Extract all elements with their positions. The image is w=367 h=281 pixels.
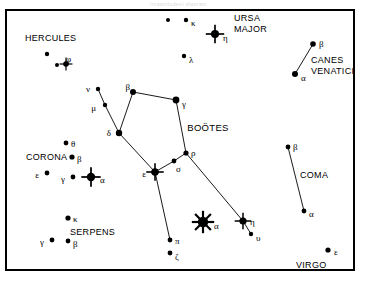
star-label: η [250,217,255,227]
star-disc [302,209,307,214]
star-label: ε [35,170,39,180]
star-disc [183,150,188,155]
star-label: σ [176,164,181,174]
star-disc [116,130,122,136]
constellation-label-virgo: VIRGO [296,260,327,270]
star-label: α [309,209,314,219]
star-label: λ [189,55,194,65]
star-disc [286,145,291,150]
star-marker [130,89,136,95]
star-marker [45,171,50,176]
star-label: ρ [191,148,196,158]
star-marker [168,251,173,256]
constellation-label-ursa-major-1: URSA [234,13,260,23]
star-disc [211,30,219,38]
star-disc [55,63,59,67]
star-marker [325,247,330,252]
star-label: β [293,142,298,152]
star-marker [71,175,76,180]
star-label: η [223,33,228,43]
star-marker [249,232,253,236]
star-disc [172,159,177,164]
constellation-label-hercules: HERCULES [25,33,76,43]
star-marker [55,63,59,67]
star-disc [66,239,71,244]
star-label: ν [86,84,90,94]
star-chart-figure: (magnitudes) diagram κηλφβανμβγδρσεπζαηυ… [0,0,367,281]
star-disc [310,41,316,47]
star-label: υ [256,233,261,243]
star-marker [302,209,307,214]
star-marker [168,238,173,243]
star-disc [166,18,170,22]
star-disc [87,173,95,181]
constellation-label-ursa-major-2: MAJOR [234,24,267,34]
star-marker [45,52,49,56]
star-marker [65,215,70,220]
star-disc [50,238,55,243]
star-marker [69,154,74,159]
star-marker [173,97,180,104]
constellation-label-corona: CORONA [26,152,67,162]
star-marker [310,41,316,47]
constellation-label-serpens: SERPENS [70,227,115,237]
star-label: μ [91,103,96,113]
star-disc [325,247,330,252]
constellation-label-bootes: BOÖTES [187,122,228,133]
star-label: γ [60,174,65,184]
star-label: β [73,239,78,249]
star-label: δ [107,128,111,138]
star-label: α [214,221,219,231]
star-marker [183,150,188,155]
star-label: ε [142,169,146,179]
star-label: α [301,73,306,83]
star-marker [116,130,122,136]
star-marker [192,211,214,233]
star-disc [239,217,246,224]
star-marker [182,54,186,58]
star-label: π [175,236,180,246]
star-marker [292,71,298,77]
star-marker [96,87,100,91]
star-marker [50,238,55,243]
star-disc [168,251,173,256]
constellation-label-canes-venatici-2: VENATICI [311,66,354,76]
star-disc [292,71,298,77]
star-disc [45,171,50,176]
star-marker [66,239,71,244]
star-label: β [77,154,82,164]
star-marker [172,159,177,164]
star-label: θ [71,139,75,149]
star-disc [71,175,76,180]
star-disc [69,154,74,159]
star-marker [64,141,69,146]
star-disc [65,215,70,220]
constellation-label-canes-venatici-1: CANES [311,55,344,65]
star-disc [173,97,180,104]
star-disc [249,232,253,236]
chart-frame [6,10,354,270]
star-marker [103,103,107,107]
star-label: β [125,82,130,92]
star-disc [96,87,100,91]
star-label: ζ [175,252,179,262]
star-marker [166,18,170,22]
star-marker [286,145,291,150]
star-label: φ [66,54,71,64]
star-disc [45,52,49,56]
star-label: β [319,39,324,49]
star-disc [64,141,69,146]
star-disc [151,168,159,176]
star-disc [168,238,173,243]
constellation-label-coma: COMA [300,170,328,180]
star-disc [182,54,186,58]
star-label: ε [334,247,338,257]
star-disc [184,18,188,22]
star-disc [130,89,136,95]
star-disc [103,103,107,107]
star-label: κ [73,214,78,224]
star-marker [184,18,188,22]
star-label: κ [191,18,196,28]
star-label: γ [181,99,186,109]
star-label: α [100,175,105,185]
